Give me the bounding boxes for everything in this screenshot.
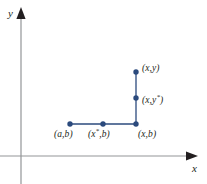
point-label-a-b-text: (a,b) [54,129,73,139]
point-label-a-b: (a,b) [54,130,73,140]
point-label-x-ystar-suffix: ) [160,95,163,105]
point-label-xstar-b: (x*,b) [88,130,110,140]
coordinate-plane-figure: y x (x,y) (x,y*) (a,b) (x*,b) (x,b) [0,0,207,184]
figure-canvas [0,0,207,184]
point-label-x-y: (x,y) [142,64,160,74]
point-x-y [133,69,138,74]
point-label-x-y-text: (x,y) [142,63,160,73]
point-label-x-ystar-prefix: (x,y [142,95,156,105]
point-label-x-b-text: (x,b) [138,129,156,139]
point-a-b [67,121,72,126]
point-x-ystar [133,95,138,100]
y-axis-label: y [8,8,13,19]
point-label-xstar-b-prefix: (x [88,129,96,139]
point-xstar-b [100,121,105,126]
point-label-xstar-b-suffix: ,b) [99,129,110,139]
y-axis-arrowhead [16,7,25,19]
x-axis-arrowhead [186,151,198,160]
x-axis-label: x [192,163,197,174]
point-label-x-ystar: (x,y*) [142,96,163,106]
point-label-x-b: (x,b) [138,130,156,140]
point-x-b [133,121,138,126]
